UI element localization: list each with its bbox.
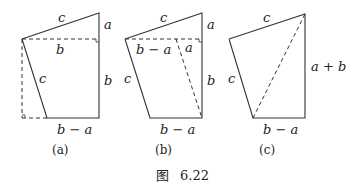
label-b-minus-a: b − a	[263, 122, 298, 137]
label-c-left: c	[228, 71, 236, 86]
panel-label-b: (b)	[155, 143, 172, 157]
label-b-minus-a: b − a	[57, 122, 92, 137]
dashed-diagonal	[253, 14, 305, 118]
label-c-top: c	[58, 10, 66, 25]
panel-c: c a + b c b − a (c)	[228, 10, 346, 157]
label-b-right: b	[207, 73, 215, 88]
figure-6-22: c a b c b b − a (a) c a b − a a c b b − …	[0, 0, 352, 189]
label-a-dashed: a	[185, 40, 193, 55]
caption-number: 6.22	[180, 168, 209, 183]
label-a-plus-b: a + b	[311, 59, 346, 74]
label-c-left: c	[124, 71, 132, 86]
label-b-minus-a: b − a	[160, 122, 195, 137]
label-b-right: b	[104, 73, 112, 88]
label-b-dashed: b	[56, 42, 64, 57]
label-c-top: c	[263, 10, 271, 25]
label-c-left: c	[39, 71, 47, 86]
trapezoid-b	[125, 13, 202, 118]
panel-b: c a b − a a c b b − a (b)	[124, 10, 215, 157]
panel-a: c a b c b b − a (a)	[22, 10, 112, 157]
label-a-right: a	[207, 17, 215, 32]
panel-label-a: (a)	[52, 143, 69, 157]
panel-label-c: (c)	[259, 143, 275, 157]
trapezoid-c	[229, 14, 305, 118]
label-a-right: a	[104, 17, 112, 32]
caption-prefix: 图	[156, 168, 169, 183]
label-c-top: c	[160, 10, 168, 25]
trapezoid-a	[22, 13, 99, 118]
label-b-minus-a-dashed: b − a	[136, 42, 171, 57]
